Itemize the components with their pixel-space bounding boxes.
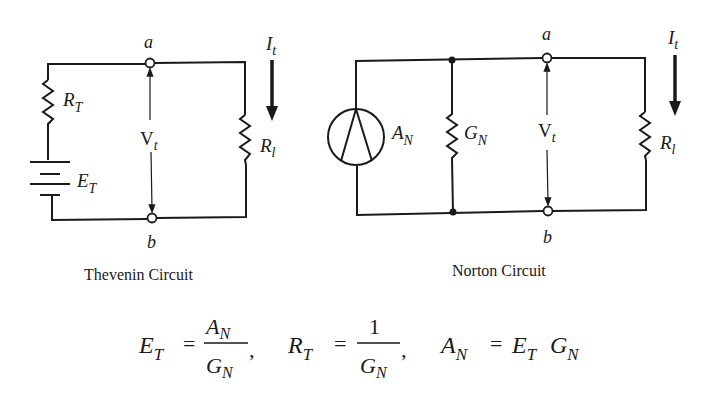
junction-top-icon (449, 57, 456, 64)
rt-label: RT (62, 89, 84, 115)
norton-bottom-wire (357, 160, 646, 215)
svg-text:1: 1 (369, 314, 380, 339)
resistor-rt-icon (43, 80, 53, 160)
voltage-arrow-down-icon (151, 152, 152, 209)
it-label: It (265, 33, 277, 58)
resistor-rl-icon (240, 115, 250, 165)
svg-text:ET: ET (511, 332, 538, 364)
svg-text:GN: GN (360, 353, 388, 381)
current-arrow-icon (266, 60, 278, 121)
terminal-a-norton-icon (543, 54, 552, 63)
svg-text:GN: GN (206, 353, 234, 381)
svg-text:,: , (249, 337, 255, 362)
equation-et: ET = AN GN , (138, 314, 255, 381)
equation-rt: RT = 1 GN , (287, 314, 407, 381)
resistor-rl-norton-icon (640, 112, 650, 160)
svg-text:,: , (401, 337, 407, 362)
circuit-diagram: a b RT ET Vt Rl It Thevenin Circuit (0, 0, 705, 399)
rl-label: Rl (259, 135, 276, 160)
vt-label: Vt (140, 128, 159, 153)
terminal-b-norton-icon (544, 207, 553, 216)
svg-text:AN: AN (439, 332, 469, 364)
node-a-norton-label: a (542, 24, 551, 44)
svg-text:ET: ET (138, 332, 165, 364)
svg-text:=: = (183, 331, 195, 356)
norton-caption: Norton Circuit (452, 262, 546, 279)
junction-bottom-icon (450, 209, 457, 216)
equation-an: AN = ET GN (439, 331, 580, 364)
norton-circuit: a b AN GN Vt Rl It Norton Circuit (328, 24, 681, 279)
node-b-label: b (147, 232, 156, 252)
svg-text:=: = (334, 331, 346, 356)
norton-top-wire (356, 58, 645, 112)
thevenin-circuit: a b RT ET Vt Rl It Thevenin Circuit (30, 32, 278, 283)
svg-text:GN: GN (550, 332, 580, 364)
voltage-arrow-down-norton-icon (547, 150, 548, 202)
svg-text:RT: RT (287, 332, 314, 364)
conversion-equations: ET = AN GN , RT = 1 GN , AN = ET GN (138, 314, 580, 381)
rl-norton-label: Rl (659, 132, 676, 157)
node-b-norton-label: b (543, 227, 552, 247)
it-norton-label: It (667, 27, 679, 52)
current-arrow-norton-icon (669, 55, 681, 116)
vt-norton-label: Vt (538, 120, 557, 145)
terminal-a-icon (146, 59, 155, 68)
node-a-label: a (144, 32, 153, 52)
conductance-gn-icon (447, 60, 457, 212)
svg-text:AN: AN (204, 314, 231, 342)
gn-label: GN (464, 122, 488, 148)
an-label: AN (390, 122, 414, 148)
svg-text:=: = (490, 331, 502, 356)
thevenin-caption: Thevenin Circuit (84, 266, 193, 283)
battery-et-icon (30, 162, 70, 195)
et-label: ET (76, 170, 98, 196)
current-source-an-icon (328, 109, 384, 165)
terminal-b-icon (148, 214, 157, 223)
